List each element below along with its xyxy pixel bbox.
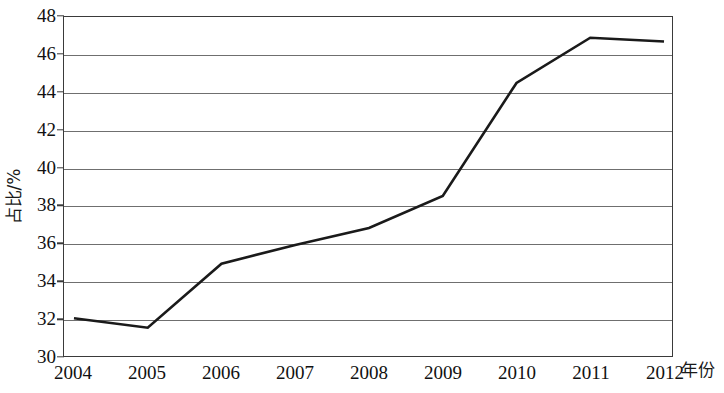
y-tick-label-44: 44 xyxy=(37,81,56,103)
x-tick-label-2010: 2010 xyxy=(498,362,536,384)
y-tick-label-46: 46 xyxy=(37,43,56,65)
plot-area xyxy=(63,16,673,357)
x-axis-title: 年份 xyxy=(681,356,715,381)
x-axis-tick-labels: 200420052006200720082009201020112012 xyxy=(0,362,724,392)
x-tick-label-2008: 2008 xyxy=(350,362,388,384)
y-tick-label-38: 38 xyxy=(37,194,56,216)
y-tick-label-34: 34 xyxy=(37,270,56,292)
x-tick-label-2004: 2004 xyxy=(54,362,92,384)
x-tick-label-2012: 2012 xyxy=(646,362,684,384)
x-tick-label-2007: 2007 xyxy=(276,362,314,384)
y-tick-label-40: 40 xyxy=(37,157,56,179)
x-tick-label-2006: 2006 xyxy=(202,362,240,384)
x-tick-label-2005: 2005 xyxy=(128,362,166,384)
y-tick-label-48: 48 xyxy=(37,5,56,27)
y-tick-label-42: 42 xyxy=(37,119,56,141)
series-line-占比 xyxy=(74,38,664,328)
y-tick-label-36: 36 xyxy=(37,232,56,254)
x-tick-label-2011: 2011 xyxy=(572,362,609,384)
x-tick-label-2009: 2009 xyxy=(424,362,462,384)
y-axis-tick-labels: 48464442403836343230 xyxy=(22,0,60,393)
line-chart: 占比/% 48464442403836343230 20042005200620… xyxy=(0,0,724,393)
y-tick-label-32: 32 xyxy=(37,308,56,330)
data-series-svg xyxy=(64,17,672,356)
